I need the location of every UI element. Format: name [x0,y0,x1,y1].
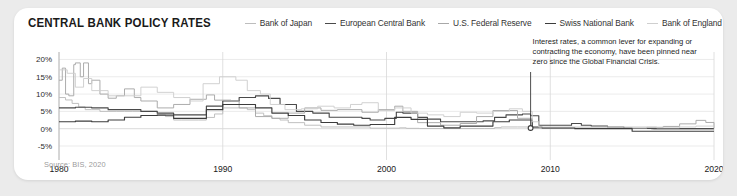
y-axis-tick-labels: 20%15%10%5%0%-5% [36,55,52,151]
legend-swatch-icon [647,23,658,24]
x-tick-label-3: 2010 [541,164,560,174]
legend-item-4[interactable]: Bank of England [647,18,722,28]
legend-label: U.S. Federal Reserve [453,18,532,28]
y-tick-label-3: 5% [40,107,52,116]
legend-label: Swiss National Bank [560,18,634,28]
annotation-line-2: contracting the economy, have been pinne… [533,47,698,56]
chart-header: CENTRAL BANK POLICY RATES Bank of JapanE… [14,8,723,38]
chart-annotation: Interest rates, a common lever for expan… [528,38,697,130]
x-tick-label-1: 1990 [213,164,232,174]
x-axis-tick-labels: 19801990200020102020 [49,164,723,174]
legend-swatch-icon [545,23,556,24]
legend-swatch-icon [438,23,449,24]
chart-legend: Bank of JapanEuropean Central BankU.S. F… [245,18,722,28]
legend-label: European Central Bank [340,18,425,28]
legend-item-3[interactable]: Swiss National Bank [545,18,634,28]
legend-item-0[interactable]: Bank of Japan [245,18,312,28]
annotation-anchor-dot [528,126,533,131]
y-tick-label-2: 10% [36,90,52,99]
legend-swatch-icon [325,23,336,24]
y-tick-label-0: 20% [36,55,52,64]
x-tick-label-4: 2020 [704,164,723,174]
y-tick-label-4: 0% [40,125,52,134]
annotation-line-1: Interest rates, a common lever for expan… [533,38,693,46]
y-tick-label-5: -5% [38,142,52,151]
legend-label: Bank of England [662,18,722,28]
page-title: CENTRAL BANK POLICY RATES [28,16,211,30]
legend-item-1[interactable]: European Central Bank [325,18,425,28]
y-tick-label-1: 15% [36,73,52,82]
legend-label: Bank of Japan [260,18,312,28]
chart-card: CENTRAL BANK POLICY RATES Bank of JapanE… [14,8,723,180]
annotation-line-3: zero since the Global Financial Crisis. [533,57,660,66]
source-note: Source: BIS, 2020 [44,160,106,169]
legend-swatch-icon [245,23,256,24]
line-chart-svg: 20%15%10%5%0%-5% 19801990200020102020 In… [14,38,723,180]
x-tick-label-2: 2000 [377,164,396,174]
plot-area: 20%15%10%5%0%-5% 19801990200020102020 In… [14,38,723,180]
legend-item-2[interactable]: U.S. Federal Reserve [438,18,532,28]
